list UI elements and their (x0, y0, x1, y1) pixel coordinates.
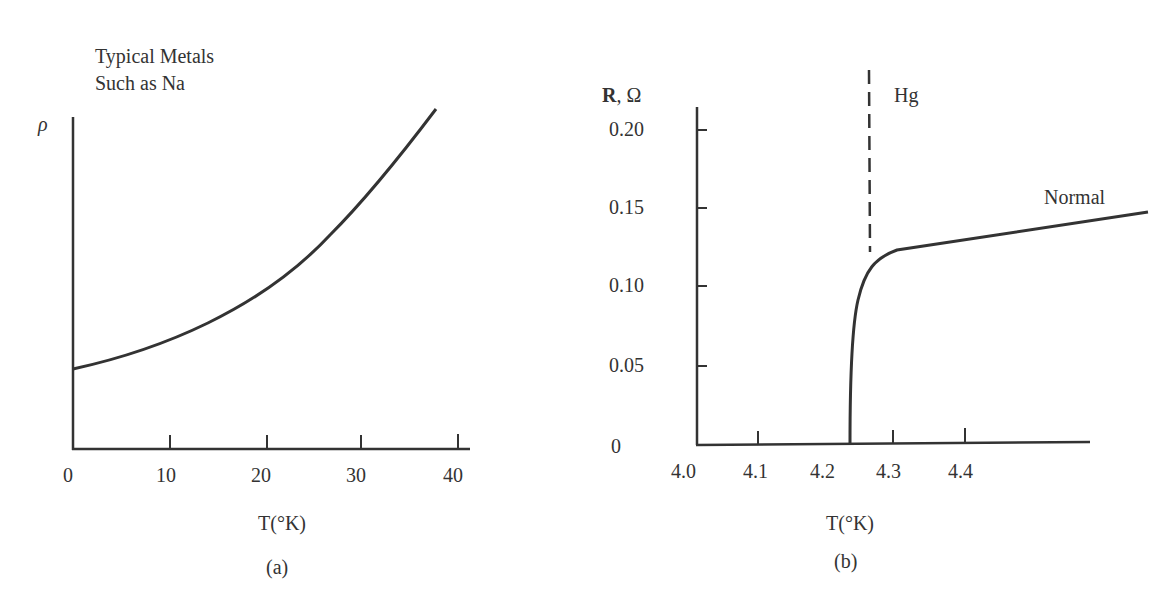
x-tick-label: 40 (443, 464, 463, 487)
x-tick-label: 30 (346, 464, 366, 487)
y-tick-label: 0.20 (609, 118, 644, 141)
x-ticks (170, 434, 458, 449)
x-axis-label: T(°K) (826, 512, 874, 535)
x-tick-label: 4.4 (948, 460, 973, 483)
material-label: Hg (894, 84, 918, 107)
y-axis-label: R, Ω (602, 84, 641, 107)
y-axis-label: ρ (38, 113, 48, 136)
chart-panel-a: Typical Metals Such as Na ρ 0 10 20 30 4… (0, 0, 560, 609)
y-tick-label: 0 (611, 435, 621, 458)
chart-title-line1: Typical Metals (95, 45, 214, 68)
x-tick-label: 0 (63, 464, 73, 487)
chart-panel-b: R, Ω Hg Normal 0.20 0.15 0.10 0.05 0 4.0… (560, 0, 1155, 609)
y-tick-label: 0.05 (609, 354, 644, 377)
figure-caption-a: (a) (266, 556, 288, 579)
y-ticks (697, 130, 707, 366)
normal-state-annotation: Normal (1044, 186, 1105, 209)
y-axis-label-symbol: R (602, 84, 616, 106)
x-tick-label: 4.3 (876, 460, 901, 483)
chart-title-line2: Such as Na (95, 72, 185, 95)
y-tick-label: 0.10 (609, 274, 644, 297)
x-tick-label: 10 (156, 464, 176, 487)
resistivity-curve (73, 109, 436, 369)
y-axis-label-unit: , Ω (616, 84, 641, 106)
x-tick-label: 4.1 (743, 460, 768, 483)
resistance-curve (850, 212, 1148, 444)
x-ticks (758, 428, 965, 444)
y-tick-label: 0.15 (609, 196, 644, 219)
transition-dashed-line (869, 70, 870, 252)
x-tick-label: 4.2 (810, 460, 835, 483)
figure-caption-b: (b) (834, 550, 857, 573)
x-tick-label: 4.0 (671, 460, 696, 483)
x-tick-label: 20 (251, 464, 271, 487)
x-axis-label: T(°K) (258, 512, 306, 535)
